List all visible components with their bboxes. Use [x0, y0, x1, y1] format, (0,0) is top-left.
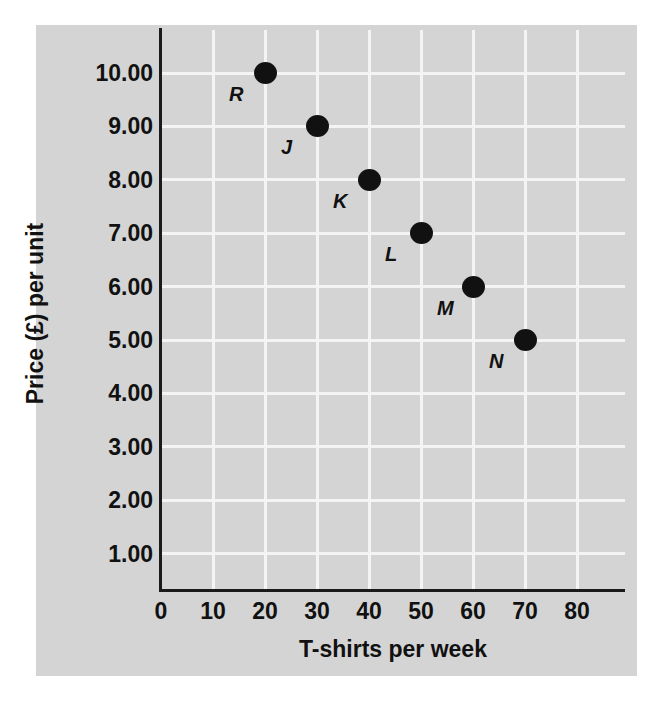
y-tick-label: 5.00 [108, 327, 153, 354]
x-tick-label: 40 [356, 598, 382, 625]
data-point-marker [462, 276, 485, 298]
data-point-label: L [385, 243, 397, 266]
data-point-marker [306, 115, 329, 137]
data-point-marker [410, 222, 433, 244]
gridline-vertical [524, 30, 527, 590]
data-point-label: K [333, 190, 347, 213]
data-point-marker [514, 329, 537, 351]
data-point-label: J [281, 136, 292, 159]
data-point-label: M [437, 297, 454, 320]
x-axis-line [159, 589, 625, 592]
y-tick-label: 9.00 [108, 113, 153, 140]
gridline-vertical [576, 30, 579, 590]
gridline-horizontal [161, 339, 625, 342]
x-tick-label: 10 [200, 598, 226, 625]
data-point-marker [254, 62, 277, 84]
plot-area: RJKLMN [161, 30, 625, 590]
y-axis-line [159, 28, 162, 592]
gridline-horizontal [161, 178, 625, 181]
gridline-horizontal [161, 499, 625, 502]
y-axis-title: Price (£) per unit [22, 164, 49, 464]
gridline-horizontal [161, 285, 625, 288]
x-tick-label: 30 [304, 598, 330, 625]
gridline-vertical [472, 30, 475, 590]
y-tick-label: 1.00 [108, 540, 153, 567]
data-point-label: N [489, 350, 503, 373]
x-tick-label: 50 [408, 598, 434, 625]
gridline-horizontal [161, 445, 625, 448]
data-point-label: R [229, 83, 243, 106]
x-tick-label: 70 [512, 598, 538, 625]
x-tick-label: 0 [155, 598, 168, 625]
y-tick-label: 8.00 [108, 166, 153, 193]
y-tick-label: 4.00 [108, 380, 153, 407]
x-axis-title: T-shirts per week [161, 636, 625, 663]
y-tick-label: 7.00 [108, 220, 153, 247]
y-tick-label: 3.00 [108, 433, 153, 460]
gridline-horizontal [161, 552, 625, 555]
x-tick-label: 20 [252, 598, 278, 625]
gridline-vertical [420, 30, 423, 590]
x-tick-label: 60 [460, 598, 486, 625]
gridline-horizontal [161, 125, 625, 128]
gridline-horizontal [161, 232, 625, 235]
gridline-vertical [264, 30, 267, 590]
y-tick-label: 10.00 [95, 60, 153, 87]
gridline-vertical [316, 30, 319, 590]
gridline-vertical [212, 30, 215, 590]
x-tick-label: 80 [564, 598, 590, 625]
y-tick-labels: 1.002.003.004.005.006.007.008.009.0010.0… [36, 0, 153, 701]
data-point-marker [358, 169, 381, 191]
gridline-horizontal [161, 392, 625, 395]
gridline-horizontal [161, 72, 625, 75]
y-tick-label: 2.00 [108, 487, 153, 514]
y-tick-label: 6.00 [108, 273, 153, 300]
gridline-vertical [368, 30, 371, 590]
chart-figure: RJKLMN 1.002.003.004.005.006.007.008.009… [0, 0, 669, 701]
